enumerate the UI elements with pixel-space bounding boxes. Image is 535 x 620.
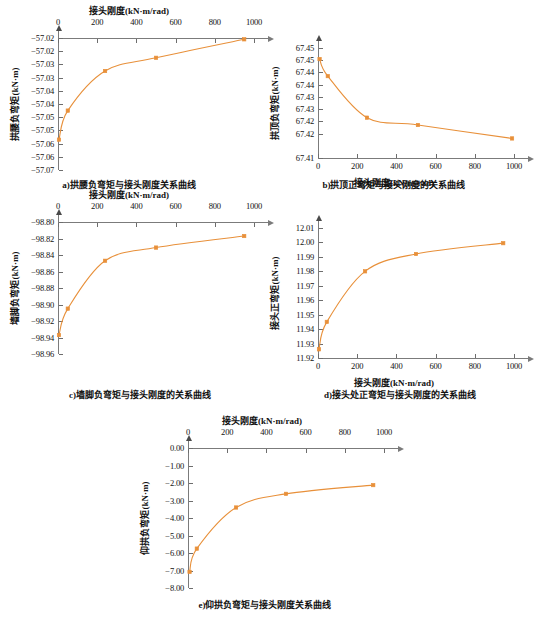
series-line-e bbox=[190, 485, 374, 572]
data-point-e-3 bbox=[284, 492, 287, 495]
data-point-e-4 bbox=[372, 483, 375, 486]
chart-caption-e: e)仰拱负弯矩与接头刚度关系曲线 bbox=[199, 598, 332, 611]
data-point-e-1 bbox=[195, 547, 198, 550]
series-e bbox=[0, 0, 535, 620]
figure-container: 02004006008001000−57.02−57.02−57.03−57.0… bbox=[0, 0, 535, 620]
data-point-e-2 bbox=[234, 506, 237, 509]
data-point-e-0 bbox=[188, 570, 191, 573]
chart-panel-e: 020040060080010000.00−1.00−2.00−3.00−4.0… bbox=[0, 0, 535, 620]
